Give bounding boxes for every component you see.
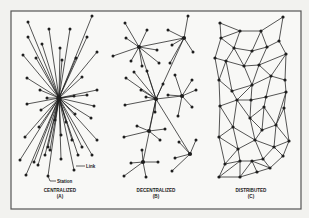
distributed-station — [219, 36, 222, 39]
centralized-station — [19, 159, 22, 162]
centralized-station — [26, 103, 29, 106]
centralized-station — [86, 36, 89, 39]
centralized-station — [54, 119, 57, 122]
centralized-station — [77, 154, 80, 157]
centralized-station — [96, 51, 99, 54]
centralized-station — [60, 158, 63, 161]
centralized-station — [33, 161, 36, 164]
distributed-station — [248, 116, 251, 119]
distributed-station — [282, 106, 285, 109]
decentralized-station — [136, 125, 139, 128]
distributed-station — [261, 157, 264, 160]
distributed-station — [272, 145, 275, 148]
distributed-station — [213, 56, 216, 59]
decentralized-station — [133, 71, 136, 74]
decentralized-station — [124, 104, 127, 107]
distributed-station — [217, 135, 220, 138]
centralized-station — [81, 146, 84, 149]
distributed-station — [268, 166, 271, 169]
decentralized-hub-node — [182, 36, 186, 40]
decentralized-station — [146, 29, 149, 32]
distributed-station — [281, 154, 284, 157]
centralized-station — [86, 94, 89, 97]
centralized-station — [22, 54, 25, 57]
centralized-station — [47, 146, 50, 149]
distributed-station — [231, 125, 234, 128]
decentralized-station — [125, 37, 128, 40]
decentralized-station — [130, 60, 133, 63]
decentralized-station — [191, 79, 194, 82]
distributed-station — [217, 78, 220, 81]
centralized-station — [59, 47, 62, 50]
centralized-station — [24, 136, 27, 139]
distributed-station — [281, 15, 284, 18]
centralized-station — [44, 154, 47, 157]
decentralized-station — [146, 70, 149, 73]
decentralized-station — [195, 89, 198, 92]
decentralized-station — [145, 96, 148, 99]
centralized-station — [26, 77, 29, 80]
network-diagram-figure: Link Station CENTRALIZED (A) DECENTRALIZ… — [0, 0, 309, 218]
decentralized-station — [124, 22, 127, 25]
decentralized-station — [195, 139, 198, 142]
centralized-title: CENTRALIZED — [44, 188, 77, 193]
distributed-station — [265, 45, 268, 48]
distributed-station — [224, 59, 227, 62]
distributed-station — [283, 78, 286, 81]
centralized-hub-node — [56, 95, 61, 100]
decentralized-station — [159, 139, 162, 142]
decentralized-station — [157, 161, 160, 164]
distributed-station — [236, 147, 239, 150]
decentralized-station — [164, 128, 167, 131]
decentralized-station — [156, 49, 159, 52]
centralized-station — [96, 139, 99, 142]
centralized-station — [25, 174, 28, 177]
decentralized-station — [167, 29, 170, 32]
distributed-station — [250, 159, 253, 162]
decentralized-station — [167, 94, 170, 97]
link-annotation-text: Link — [86, 164, 96, 169]
centralized-station — [69, 28, 72, 31]
decentralized-hub-node — [137, 45, 141, 49]
decentralized-station — [141, 65, 144, 68]
distributed-station — [238, 159, 241, 162]
distributed-station — [249, 98, 252, 101]
distributed-station — [284, 52, 287, 55]
centralized-station — [41, 43, 44, 46]
decentralized-station — [125, 77, 128, 80]
distributed-station — [223, 162, 226, 165]
decentralized-title: DECENTRALIZED — [137, 188, 176, 193]
distributed-station — [259, 29, 262, 32]
distributed-letter: (C) — [248, 194, 255, 199]
distributed-station — [287, 139, 290, 142]
distributed-station — [235, 98, 238, 101]
decentralized-station — [171, 44, 174, 47]
decentralized-station — [191, 106, 194, 109]
centralized-station — [39, 89, 42, 92]
decentralized-station — [154, 111, 157, 114]
centralized-station — [38, 126, 41, 129]
distributed-station — [277, 39, 280, 42]
distributed-station — [218, 104, 221, 107]
distributed-title: DISTRIBUTED — [236, 188, 268, 193]
centralized-station — [96, 89, 99, 92]
distributed-station — [269, 74, 272, 77]
decentralized-hub-node — [180, 94, 184, 98]
station-annotation-text: Station — [57, 179, 73, 184]
distributed-station — [232, 46, 235, 49]
centralized-station — [91, 154, 94, 157]
centralized-station — [27, 21, 30, 24]
centralized-station — [48, 28, 51, 31]
distributed-station — [242, 64, 245, 67]
centralized-station — [49, 149, 52, 152]
centralized-station — [60, 134, 63, 137]
distributed-station — [262, 105, 265, 108]
decentralized-station — [140, 89, 143, 92]
decentralized-station — [145, 176, 148, 179]
decentralized-hub-node — [147, 129, 151, 133]
decentralized-station — [112, 55, 115, 58]
centralized-station — [74, 113, 77, 116]
centralized-station — [61, 59, 64, 62]
centralized-station — [93, 105, 96, 108]
centralized-station — [40, 109, 43, 112]
